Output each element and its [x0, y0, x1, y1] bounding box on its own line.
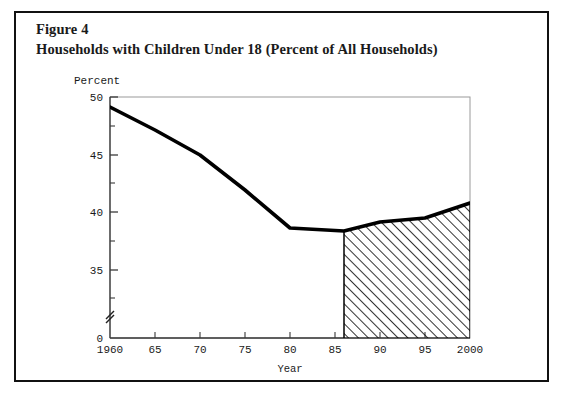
x-tick-label-1960: 1960 [97, 344, 123, 356]
y-tick-label-45: 45 [90, 150, 103, 162]
x-tick-label-75: 75 [238, 344, 251, 356]
x-tick-label-2000: 2000 [457, 344, 483, 356]
y-tick-label-40: 40 [90, 207, 103, 219]
x-tick-label-85: 85 [328, 344, 341, 356]
data-line-households-with-children [110, 107, 470, 231]
y-tick-labels: 50 45 40 35 0 [90, 92, 103, 345]
y-axis [106, 97, 118, 338]
x-tick-label-95: 95 [418, 344, 431, 356]
chart-canvas: 50 45 40 35 0 Percent 1960 65 70 75 80 8… [0, 0, 566, 396]
y-tick-label-35: 35 [90, 265, 103, 277]
x-tick-labels: 1960 65 70 75 80 85 90 95 2000 [97, 344, 483, 356]
y-axis-title: Percent [74, 75, 120, 87]
x-tick-label-90: 90 [373, 344, 386, 356]
projection-hatch-region [344, 203, 470, 338]
x-axis-title: Year [277, 363, 302, 375]
x-tick-label-65: 65 [148, 344, 161, 356]
y-tick-label-50: 50 [90, 92, 103, 104]
figure-page: Figure 4 Households with Children Under … [0, 0, 566, 396]
x-tick-label-80: 80 [283, 344, 296, 356]
x-tick-label-70: 70 [193, 344, 206, 356]
